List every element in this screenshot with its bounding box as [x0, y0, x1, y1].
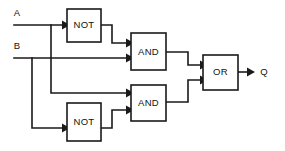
output-q-label: Q	[260, 66, 267, 77]
arrow-to-output-q	[247, 68, 255, 77]
input-b-label: B	[14, 40, 20, 51]
wire-bottom-and-to-or	[165, 80, 200, 102]
and-gate-top-label: AND	[138, 46, 159, 57]
and-gate-bottom-label: AND	[138, 97, 159, 108]
logic-circuit-diagram: NOT AND AND NOT OR A B Q	[0, 0, 285, 151]
not-gate-top-label: NOT	[74, 19, 95, 30]
circuit-canvas: NOT AND AND NOT OR A B Q	[0, 0, 285, 151]
input-a-label: A	[14, 7, 21, 18]
wire-top-and-to-or	[165, 52, 200, 65]
or-gate-label: OR	[213, 66, 228, 77]
wire-bottom-not-to-bottom-and	[100, 110, 126, 128]
wire-top-not-to-top-and	[100, 25, 126, 43]
not-gate-bottom-label: NOT	[74, 116, 95, 127]
